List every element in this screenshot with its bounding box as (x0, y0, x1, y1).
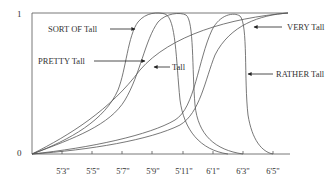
label-tall: Tall (172, 63, 185, 72)
annotation-arrows (94, 27, 282, 74)
label-sort-of-tall: SORT OF Tall (48, 25, 97, 34)
x-tick-6-5: 6'5" (266, 167, 280, 176)
x-tick-5-7: 5'7" (116, 167, 130, 176)
x-tick-5-9: 5'9" (146, 167, 160, 176)
x-tick-5-11: 5'11" (175, 167, 192, 176)
curve-pretty-tall (32, 13, 243, 154)
y-tick-1: 1 (17, 10, 22, 19)
x-tick-5-5: 5'5" (86, 167, 100, 176)
x-tick-6-1: 6'1" (206, 167, 220, 176)
label-rather-tall: RATHER Tall (276, 70, 324, 79)
y-tick-0: 0 (17, 149, 22, 158)
curve-rather-tall (32, 14, 273, 154)
x-tick-6-3: 6'3" (236, 167, 250, 176)
curves (32, 13, 288, 154)
curve-sort-of-tall (32, 13, 228, 154)
x-tick-5-3: 5'3" (56, 167, 70, 176)
label-very-tall: VERY Tall (287, 23, 324, 32)
label-pretty-tall: PRETTY Tall (38, 57, 85, 66)
